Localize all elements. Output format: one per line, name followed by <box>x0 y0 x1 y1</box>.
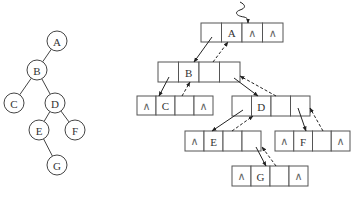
linked-node-g: ∧G∧ <box>232 166 308 186</box>
tree-node-b: B <box>27 60 47 80</box>
linked-node-b: B <box>158 62 240 82</box>
binary-tree: ABCDEFG <box>4 31 85 175</box>
lchild-field <box>271 96 291 116</box>
lchild-field <box>270 166 289 186</box>
arrow-b-to-d <box>234 78 258 96</box>
arrow-b-parent-a <box>213 42 228 62</box>
node-label: F <box>72 125 78 137</box>
arrow-c-parent-b <box>182 82 190 96</box>
tree-node-g: G <box>47 155 67 175</box>
data-value: D <box>257 101 265 113</box>
rchild-field <box>220 62 241 82</box>
data-value: F <box>300 136 306 148</box>
tree-node-c: C <box>4 93 24 113</box>
rchild-field <box>242 131 261 151</box>
root-pointer-arrow <box>237 2 248 23</box>
null-pointer-mark: ∧ <box>237 170 245 183</box>
parent-field <box>201 23 222 42</box>
tree-edge-a-b <box>43 49 52 62</box>
tree-node-d: D <box>45 93 65 113</box>
data-value: G <box>257 171 265 183</box>
null-pointer-mark: ∧ <box>190 135 198 148</box>
lchild-field <box>175 96 194 115</box>
arrow-e-parent-d <box>232 116 253 131</box>
null-pointer-mark: ∧ <box>199 100 207 113</box>
node-label: G <box>53 160 61 172</box>
linked-node-d: D <box>232 96 310 116</box>
node-label: A <box>53 36 61 48</box>
node-label: D <box>51 98 59 110</box>
parent-field <box>232 96 252 116</box>
arrow-d-to-e <box>212 110 243 131</box>
null-pointer-mark: ∧ <box>294 170 302 183</box>
lchild-field <box>313 131 332 151</box>
tree-edge-e-g <box>44 139 53 156</box>
trident-linked-list: A∧∧B∧C∧D∧E∧F∧∧G∧ <box>137 23 350 186</box>
linked-node-a: A∧∧ <box>201 23 283 42</box>
null-pointer-mark: ∧ <box>142 100 150 113</box>
null-pointer-mark: ∧ <box>269 27 277 40</box>
linked-node-f: ∧F∧ <box>275 131 350 151</box>
data-value: A <box>228 27 236 39</box>
node-label: B <box>33 65 40 77</box>
tree-edge-b-d <box>42 79 50 94</box>
linked-node-e: ∧E <box>185 131 261 151</box>
data-value: B <box>185 67 192 79</box>
tree-node-f: F <box>65 120 85 140</box>
data-value: E <box>210 136 217 148</box>
tree-edge-d-f <box>61 111 69 122</box>
linked-node-c: ∧C∧ <box>137 96 213 115</box>
node-label: E <box>36 125 43 137</box>
data-value: C <box>162 100 169 112</box>
null-pointer-mark: ∧ <box>337 135 345 148</box>
node-label: C <box>10 98 17 110</box>
arrow-f-parent-d <box>310 108 323 131</box>
tree-node-e: E <box>29 120 49 140</box>
null-pointer-mark: ∧ <box>280 135 288 148</box>
tree-edge-b-c <box>20 78 32 95</box>
diagram-canvas: ABCDEFG A∧∧B∧C∧D∧E∧F∧∧G∧ <box>0 0 357 199</box>
tree-edge-d-e <box>44 112 50 122</box>
null-pointer-mark: ∧ <box>248 27 256 40</box>
lchild-field <box>223 131 242 151</box>
lchild-field <box>199 62 220 82</box>
tree-node-a: A <box>47 31 67 51</box>
